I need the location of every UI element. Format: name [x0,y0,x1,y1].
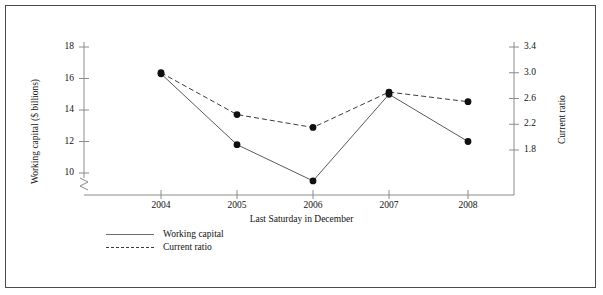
y-axis-left-tick-label: 12 [52,136,74,146]
series-markers [158,69,472,184]
y-axis-left-title: Working capital ($ billions) [30,79,40,184]
y-axis-left-tick-label: 10 [52,167,74,177]
x-axis-tick-label: 2004 [141,200,181,210]
y-axis-right-tick-label: 2.2 [524,118,550,128]
legend-item-working-capital: Working capital [106,228,224,241]
x-axis-tick-label: 2008 [448,200,488,210]
y-axis-left-tick-label: 14 [52,104,74,114]
legend-label-current-ratio: Current ratio [163,241,212,254]
x-axis-title: Last Saturday in December [6,214,597,224]
y-axis-left-tick-label: 18 [52,41,74,51]
legend-key-solid-line [106,234,154,236]
data-point-marker [158,69,165,76]
x-axis-tick-label: 2006 [293,200,333,210]
data-point-marker [234,111,241,118]
y-axis-right-tick-label: 2.6 [524,93,550,103]
series-line-current-ratio [161,73,468,128]
y-axis-right-tick-label: 3.0 [524,67,550,77]
data-point-marker [465,138,472,145]
chart-plot-area: 1816141210 3.43.02.62.21.8 2004200520062… [6,6,597,289]
y-axis-left-tick-label: 16 [52,73,74,83]
data-point-marker [234,141,241,148]
chart-legend: Working capital Current ratio [106,228,224,254]
data-point-marker [310,124,317,131]
x-axis-tick-label: 2007 [369,200,409,210]
x-axis-tick-label: 2005 [217,200,257,210]
legend-label-working-capital: Working capital [163,228,224,241]
data-point-marker [465,98,472,105]
data-point-marker [310,177,317,184]
y-axis-break-icon [80,178,88,190]
y-axis-right-tick-label: 1.8 [524,144,550,154]
y-axis-right-title: Current ratio [557,95,567,144]
legend-key-dashed-line [106,247,154,249]
legend-item-current-ratio: Current ratio [106,241,224,254]
chart-svg [6,6,597,289]
data-point-marker [386,89,393,96]
figure-frame: 1816141210 3.43.02.62.21.8 2004200520062… [5,5,596,288]
y-axis-right-tick-label: 3.4 [524,41,550,51]
